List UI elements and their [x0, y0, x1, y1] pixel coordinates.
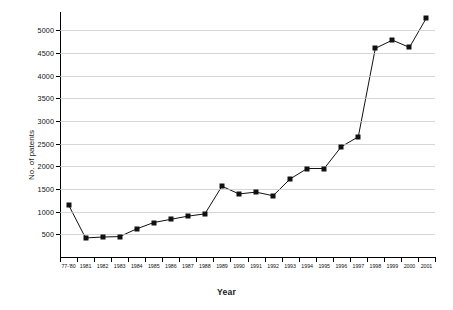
x-tick-label: 1995 [318, 263, 330, 269]
x-tick-label: 1982 [97, 263, 109, 269]
x-tick-label: 1994 [301, 263, 313, 269]
x-tick-label: 1988 [199, 263, 211, 269]
y-axis-title: No. of patents [27, 130, 36, 180]
x-tick-mark [265, 257, 266, 262]
data-point-marker [373, 46, 378, 51]
x-tick-label: 1990 [233, 263, 245, 269]
x-tick-label: 1987 [182, 263, 194, 269]
gridline [60, 53, 435, 54]
data-point-marker [134, 226, 139, 231]
x-tick-label: 2001 [421, 263, 433, 269]
gridline [60, 98, 435, 99]
y-tick-label: 1000 [38, 207, 54, 216]
x-tick-mark [111, 257, 112, 262]
x-tick-mark [213, 257, 214, 262]
x-tick-mark [418, 257, 419, 262]
y-tick-label: 3500 [38, 94, 54, 103]
y-tick-mark [56, 234, 60, 235]
x-tick-label: 1997 [353, 263, 365, 269]
gridline [60, 212, 435, 213]
x-tick-label: 1993 [284, 263, 296, 269]
y-tick-label: 4500 [38, 48, 54, 57]
x-tick-label: 1984 [131, 263, 143, 269]
x-tick-mark [333, 257, 334, 262]
x-tick-label: 77-'80 [61, 263, 75, 269]
data-point-marker [219, 184, 224, 189]
gridline [60, 144, 435, 145]
x-tick-label: 1981 [80, 263, 92, 269]
x-tick-mark [299, 257, 300, 262]
data-point-marker [424, 15, 429, 20]
x-tick-mark [179, 257, 180, 262]
data-point-marker [407, 45, 412, 50]
y-tick-mark [56, 53, 60, 54]
x-tick-label: 2000 [404, 263, 416, 269]
data-point-marker [168, 217, 173, 222]
y-tick-mark [56, 121, 60, 122]
data-point-marker [202, 211, 207, 216]
x-tick-mark [282, 257, 283, 262]
data-point-marker [151, 220, 156, 225]
gridline [60, 30, 435, 31]
y-tick-mark [56, 144, 60, 145]
x-tick-mark [230, 257, 231, 262]
y-tick-mark [56, 30, 60, 31]
gridline [60, 121, 435, 122]
data-point-marker [254, 190, 259, 195]
y-tick-mark [56, 76, 60, 77]
x-tick-mark [384, 257, 385, 262]
data-point-marker [117, 234, 122, 239]
x-tick-mark [350, 257, 351, 262]
data-point-marker [66, 202, 71, 207]
x-tick-label: 1992 [267, 263, 279, 269]
x-tick-label: 1983 [114, 263, 126, 269]
x-tick-label: 1998 [370, 263, 382, 269]
y-tick-label: 500 [42, 230, 54, 239]
data-point-marker [236, 191, 241, 196]
x-tick-label: 1991 [250, 263, 262, 269]
x-axis-title: Year [0, 287, 453, 297]
series-line [60, 12, 435, 257]
x-tick-mark [196, 257, 197, 262]
data-point-marker [356, 134, 361, 139]
data-point-marker [322, 166, 327, 171]
x-tick-mark [94, 257, 95, 262]
y-tick-mark [56, 212, 60, 213]
y-tick-mark [56, 189, 60, 190]
x-tick-mark [128, 257, 129, 262]
gridline [60, 76, 435, 77]
data-point-marker [100, 235, 105, 240]
y-tick-label: 4000 [38, 71, 54, 80]
y-tick-mark [56, 98, 60, 99]
x-tick-mark [77, 257, 78, 262]
y-tick-label: 2500 [38, 139, 54, 148]
data-point-marker [390, 38, 395, 43]
x-tick-label: 1999 [387, 263, 399, 269]
plot-area [60, 12, 435, 257]
x-tick-label: 1985 [148, 263, 160, 269]
x-tick-mark [401, 257, 402, 262]
y-tick-label: 5000 [38, 26, 54, 35]
x-tick-label: 1996 [335, 263, 347, 269]
x-tick-mark [60, 257, 61, 262]
x-tick-mark [316, 257, 317, 262]
x-tick-mark [435, 257, 436, 262]
data-point-marker [271, 193, 276, 198]
x-tick-label: 1989 [216, 263, 228, 269]
y-tick-label: 3000 [38, 116, 54, 125]
x-tick-mark [162, 257, 163, 262]
x-tick-mark [248, 257, 249, 262]
data-point-marker [288, 176, 293, 181]
gridline [60, 166, 435, 167]
x-tick-mark [145, 257, 146, 262]
x-tick-label: 1986 [165, 263, 177, 269]
data-point-marker [185, 214, 190, 219]
data-point-marker [305, 166, 310, 171]
gridline [60, 189, 435, 190]
y-tick-label: 2000 [38, 162, 54, 171]
x-tick-mark [367, 257, 368, 262]
data-point-marker [339, 144, 344, 149]
y-tick-mark [56, 166, 60, 167]
y-tick-label: 1500 [38, 184, 54, 193]
data-point-marker [83, 235, 88, 240]
